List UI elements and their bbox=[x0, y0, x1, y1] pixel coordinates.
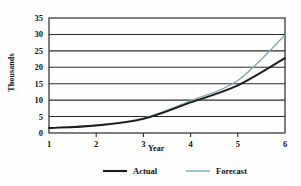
y-axis-ticks: 05101520253035 bbox=[35, 13, 44, 138]
y-tick-label: 35 bbox=[35, 13, 44, 23]
y-tick-label: 15 bbox=[35, 79, 44, 89]
series-line-forecast bbox=[49, 35, 285, 128]
y-tick-label: 20 bbox=[35, 62, 44, 72]
plot-frame bbox=[49, 18, 285, 133]
chart-legend: ActualForecast bbox=[103, 166, 247, 176]
chart-figure: Thousands Year 05101520253035 123456 Act… bbox=[0, 0, 301, 186]
x-tick-label: 6 bbox=[283, 139, 287, 149]
y-tick-label: 30 bbox=[35, 29, 44, 39]
y-tick-label: 5 bbox=[39, 112, 43, 122]
y-tick-label: 25 bbox=[35, 46, 44, 56]
x-tick-label: 2 bbox=[94, 139, 98, 149]
x-axis-ticks: 123456 bbox=[47, 133, 287, 149]
x-tick-label: 5 bbox=[236, 139, 240, 149]
legend-label-actual: Actual bbox=[133, 166, 158, 176]
series-line-actual bbox=[49, 58, 285, 128]
y-tick-label: 0 bbox=[39, 128, 43, 138]
line-chart: 05101520253035 123456 ActualForecast bbox=[0, 0, 301, 186]
x-tick-label: 1 bbox=[47, 139, 51, 149]
legend-label-forecast: Forecast bbox=[216, 166, 247, 176]
x-tick-label: 4 bbox=[188, 139, 193, 149]
y-tick-label: 10 bbox=[35, 95, 44, 105]
x-tick-label: 3 bbox=[141, 139, 145, 149]
data-series-group bbox=[49, 35, 285, 128]
gridlines-group bbox=[49, 34, 285, 116]
